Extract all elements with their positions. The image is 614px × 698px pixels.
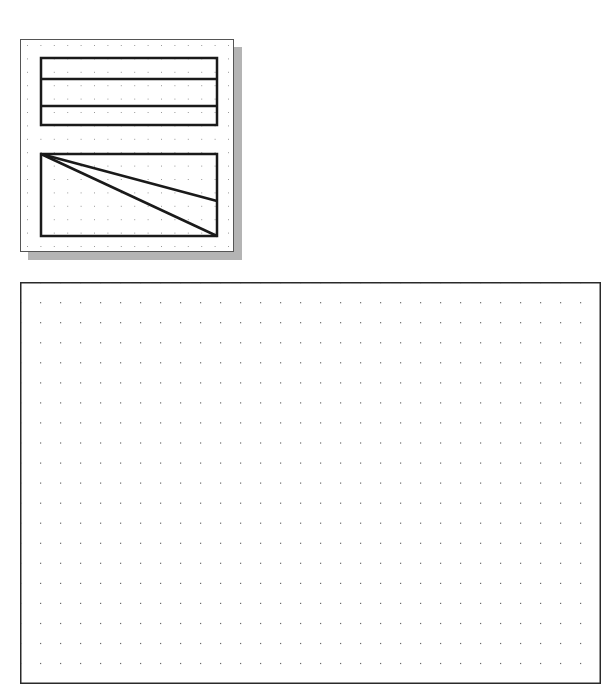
grid-dot xyxy=(420,483,421,484)
grid-dot xyxy=(480,322,481,323)
grid-dot xyxy=(188,233,189,234)
grid-dot xyxy=(240,382,241,383)
grid-dot xyxy=(100,583,101,584)
grid-dot xyxy=(260,583,261,584)
grid-dot xyxy=(500,422,501,423)
canvas-grid[interactable] xyxy=(20,282,601,684)
grid-dot xyxy=(160,543,161,544)
grid-dot xyxy=(100,463,101,464)
grid-dot xyxy=(360,342,361,343)
grid-dot xyxy=(420,603,421,604)
grid-dot xyxy=(100,663,101,664)
grid-dot xyxy=(67,99,68,100)
grid-dot xyxy=(460,422,461,423)
grid-dot xyxy=(54,219,55,220)
grid-dot xyxy=(67,246,68,247)
grid-dot xyxy=(360,503,361,504)
grid-dot xyxy=(40,623,41,624)
grid-dot xyxy=(80,563,81,564)
grid-dot xyxy=(120,402,121,403)
grid-dot xyxy=(520,623,521,624)
grid-dot xyxy=(215,45,216,46)
grid-dot xyxy=(27,139,28,140)
grid-dot xyxy=(201,166,202,167)
grid-dot xyxy=(120,623,121,624)
grid-dot xyxy=(580,422,581,423)
grid-dot xyxy=(480,503,481,504)
grid-dot xyxy=(215,246,216,247)
grid-dot xyxy=(54,166,55,167)
grid-dot xyxy=(228,112,229,113)
grid-dot xyxy=(440,663,441,664)
grid-dot xyxy=(520,322,521,323)
grid-dot xyxy=(228,85,229,86)
grid-dot xyxy=(140,623,141,624)
grid-dot xyxy=(121,99,122,100)
grid-dot xyxy=(134,206,135,207)
grid-dot xyxy=(300,483,301,484)
grid-dot xyxy=(280,442,281,443)
grid-dot xyxy=(80,543,81,544)
grid-dot xyxy=(94,99,95,100)
grid-dot xyxy=(27,125,28,126)
grid-dot xyxy=(188,246,189,247)
grid-dot xyxy=(520,563,521,564)
grid-dot xyxy=(161,179,162,180)
grid-dot xyxy=(81,139,82,140)
grid-dot xyxy=(380,663,381,664)
grid-dot xyxy=(460,402,461,403)
grid-dot xyxy=(420,543,421,544)
grid-dot xyxy=(560,463,561,464)
grid-dot xyxy=(440,302,441,303)
grid-dot xyxy=(440,342,441,343)
grid-dot xyxy=(340,302,341,303)
grid-dot xyxy=(54,45,55,46)
grid-dot xyxy=(240,603,241,604)
grid-dot xyxy=(300,543,301,544)
grid-dot xyxy=(560,663,561,664)
grid-dot xyxy=(67,192,68,193)
grid-dot xyxy=(560,382,561,383)
grid-dot xyxy=(140,322,141,323)
grid-dot xyxy=(100,442,101,443)
grid-dot xyxy=(540,402,541,403)
grid-dot xyxy=(360,483,361,484)
grid-dot xyxy=(280,603,281,604)
grid-dot xyxy=(500,483,501,484)
grid-dot xyxy=(520,463,521,464)
grid-dot xyxy=(201,179,202,180)
grid-dot xyxy=(580,503,581,504)
grid-dot xyxy=(215,99,216,100)
grid-dot xyxy=(420,382,421,383)
grid-dot xyxy=(81,45,82,46)
grid-dot xyxy=(201,233,202,234)
grid-dot xyxy=(220,563,221,564)
grid-dot xyxy=(380,603,381,604)
grid-dot xyxy=(360,422,361,423)
grid-dot xyxy=(460,342,461,343)
grid-dot xyxy=(60,583,61,584)
grid-dot xyxy=(81,112,82,113)
grid-dot xyxy=(228,72,229,73)
grid-dot xyxy=(180,402,181,403)
grid-dot xyxy=(121,219,122,220)
grid-dot xyxy=(280,342,281,343)
grid-dot xyxy=(100,302,101,303)
grid-dot xyxy=(80,583,81,584)
grid-dot xyxy=(300,643,301,644)
grid-dot xyxy=(360,623,361,624)
grid-dot xyxy=(400,442,401,443)
grid-dot xyxy=(100,362,101,363)
grid-dot xyxy=(240,583,241,584)
grid-dot xyxy=(560,362,561,363)
grid-dot xyxy=(120,643,121,644)
grid-dot xyxy=(40,643,41,644)
grid-dot xyxy=(260,543,261,544)
grid-dot xyxy=(480,342,481,343)
drawing-canvas[interactable] xyxy=(20,282,601,684)
grid-dot xyxy=(160,583,161,584)
grid-dot xyxy=(360,603,361,604)
grid-dot xyxy=(580,663,581,664)
grid-dot xyxy=(228,219,229,220)
grid-dot xyxy=(220,382,221,383)
